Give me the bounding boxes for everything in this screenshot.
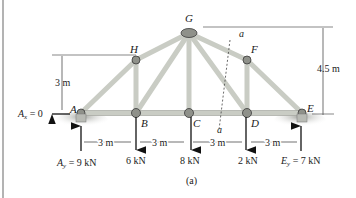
pin-support-e [297,114,307,122]
figure-caption: (a) [186,175,197,187]
pin-support-a [76,114,86,122]
joint-b [132,109,141,118]
reaction-ey-label: Ey = 7 kN [280,155,321,168]
label-a: A [69,103,77,115]
label-h: H [129,43,139,55]
label-g: G [185,12,193,24]
label-c: C [193,117,201,129]
reaction-ay-label: Ay = 9 kN [56,157,97,170]
section-label-a-bottom: a [217,124,222,135]
truss-figure: G H F A B C D E a a 3 m 4.5 m 3 m 3 m 3 … [0,0,356,198]
dim-4p5m-height: 4.5 m [317,63,340,74]
span-ab: 3 m [98,137,114,148]
reaction-ax-label: Ax = 0 [17,108,43,121]
load-c-value: 8 kN [180,155,200,166]
label-e: E [306,102,314,114]
label-d: D [250,117,259,129]
label-b: B [141,117,148,129]
span-bc: 3 m [152,137,168,148]
span-cd: 3 m [210,137,226,148]
label-f: F [250,43,258,55]
section-label-a-top: a [239,28,244,39]
joint-f [243,56,251,64]
load-b-value: 6 kN [126,155,146,166]
dim-3m-height: 3 m [55,77,71,88]
joint-g [181,29,197,38]
joint-h [132,56,140,64]
load-d-value: 2 kN [238,155,258,166]
span-de: 3 m [265,137,281,148]
truss-members [81,33,302,113]
